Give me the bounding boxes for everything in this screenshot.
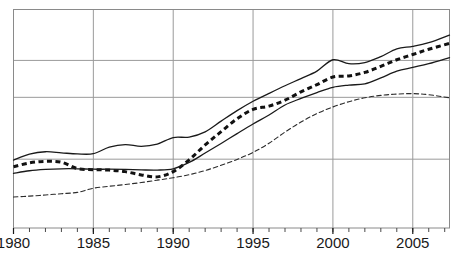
line-chart: 198019851990199520002005: [0, 0, 460, 257]
series-3-lower-solid: [14, 58, 450, 174]
x-axis-major-ticks: [14, 228, 413, 234]
series-2-bold-dashed: [14, 43, 450, 177]
chart-container: 198019851990199520002005: [0, 0, 460, 257]
x-axis-minor-ticks: [14, 228, 445, 232]
series-layer: [14, 35, 450, 197]
chart-caption: [0, 247, 460, 257]
series-4-thin-dashed: [14, 94, 450, 197]
horizontal-gridlines: [14, 60, 450, 159]
plot-frame: [14, 10, 450, 229]
vertical-gridlines: [93, 10, 412, 229]
